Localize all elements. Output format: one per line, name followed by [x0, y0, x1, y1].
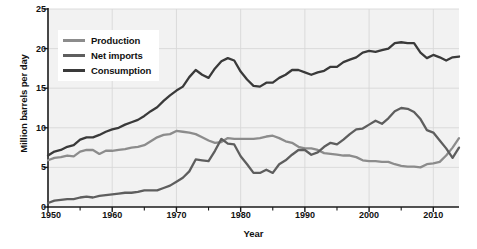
legend-label-net-imports: Net imports	[91, 50, 143, 61]
legend-item-production: Production	[63, 34, 151, 47]
legend-swatch-production	[63, 39, 85, 42]
chart-figure: 25 20 15 10 5 0 Million barrels per day …	[0, 0, 477, 249]
x-tick-label: 2010	[423, 210, 443, 220]
legend-swatch-consumption	[63, 69, 85, 72]
x-tick-label: 1950	[41, 210, 61, 220]
legend-label-production: Production	[91, 35, 140, 46]
x-tick-label: 1980	[231, 210, 251, 220]
legend-item-consumption: Consumption	[63, 64, 151, 77]
x-tick-label: 1960	[102, 210, 122, 220]
x-tick-label: 1990	[295, 210, 315, 220]
legend-label-consumption: Consumption	[91, 65, 151, 76]
x-tick-label: 1970	[166, 210, 186, 220]
chart-legend: Production Net imports Consumption	[58, 30, 159, 81]
legend-swatch-net-imports	[63, 54, 85, 57]
legend-item-net-imports: Net imports	[63, 49, 151, 62]
x-tick-label: 2000	[359, 210, 379, 220]
x-axis-title: Year	[48, 228, 459, 239]
